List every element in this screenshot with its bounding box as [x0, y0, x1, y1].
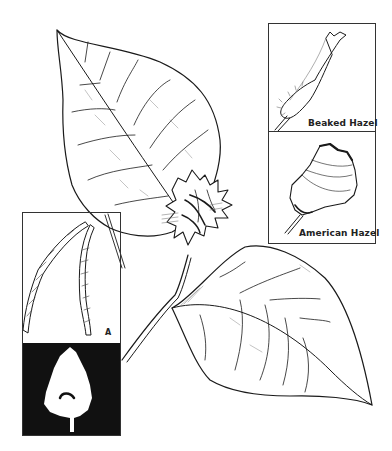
catkin-inset	[22, 212, 121, 436]
catkin-label: A	[105, 328, 111, 337]
nut-husk-cluster	[162, 170, 232, 245]
american-hazel-label: American Hazel	[299, 228, 379, 238]
inset-divider	[268, 131, 376, 132]
botanical-illustration: Beaked Hazel American Hazel A	[0, 0, 392, 451]
lower-leaf	[172, 246, 372, 405]
beaked-hazel-label: Beaked Hazel	[308, 118, 378, 128]
species-comparison-inset	[268, 23, 376, 244]
